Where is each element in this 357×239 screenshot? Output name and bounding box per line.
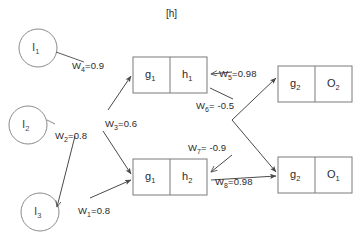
weight-label-W6: W6= -0.5 bbox=[196, 100, 234, 113]
network-diagram-canvas bbox=[0, 0, 357, 239]
edge-W2-arrow bbox=[57, 136, 75, 207]
weight-label-W5: W5=0.98 bbox=[219, 68, 257, 81]
edge-W2-stub bbox=[47, 120, 55, 124]
weight-label-W3: W3=0.6 bbox=[105, 118, 137, 131]
weight-label-W2: W2=0.8 bbox=[55, 130, 87, 143]
edge-W7-arrow bbox=[211, 155, 232, 172]
edge-W1-arrow bbox=[90, 180, 131, 198]
output-cell-O2: O2 bbox=[327, 77, 340, 92]
hidden-cell-g1-top: g1 bbox=[145, 68, 155, 83]
output-cell-g2-top: g2 bbox=[290, 77, 300, 92]
weight-label-W7: W7= -0.9 bbox=[188, 142, 226, 155]
input-label-I3: I3 bbox=[34, 205, 41, 220]
edge-W6-to-O1 bbox=[232, 120, 276, 172]
page-title: [h] bbox=[166, 8, 177, 19]
output-cell-O1: O1 bbox=[327, 168, 340, 183]
edge-W3-arrow bbox=[103, 131, 131, 174]
hidden-cell-g1-bottom: g1 bbox=[145, 170, 155, 185]
edge-W4-arrow bbox=[108, 76, 131, 110]
input-label-I2: I2 bbox=[22, 118, 29, 133]
weight-label-W8: W8=0.98 bbox=[215, 176, 253, 189]
input-label-I1: I1 bbox=[32, 41, 39, 56]
weight-label-W4: W4=0.9 bbox=[72, 60, 104, 73]
hidden-cell-h1: h1 bbox=[182, 68, 192, 83]
edge-W5-to-O2 bbox=[232, 78, 276, 120]
output-cell-g2-bottom: g2 bbox=[290, 168, 300, 183]
weight-label-W1: W1=0.8 bbox=[78, 205, 110, 218]
edge-W6-stub bbox=[210, 88, 233, 99]
hidden-cell-h2: h2 bbox=[182, 170, 192, 185]
